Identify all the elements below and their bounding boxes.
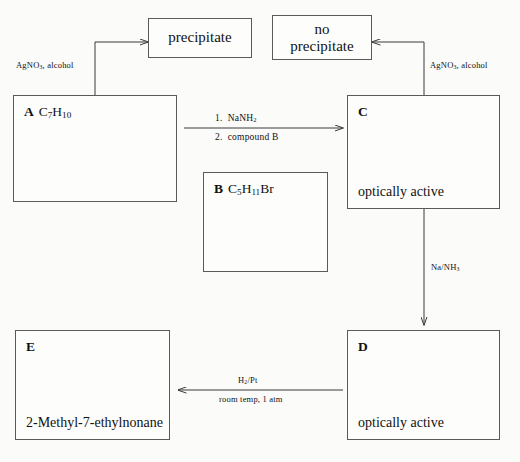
condition-a-to-c-step1: 1. NaNH2 xyxy=(215,113,257,123)
box-precipitate: precipitate xyxy=(148,18,252,58)
box-d: D optically active xyxy=(347,330,500,440)
box-c: C optically active xyxy=(347,95,500,209)
condition-a-to-c-step2: 2. compound B xyxy=(215,132,279,142)
box-a-tag: A xyxy=(24,104,34,119)
arrow-a-to-precipitate xyxy=(95,42,148,95)
no-precipitate-line1: no xyxy=(273,21,371,39)
box-a: AC7H10 xyxy=(13,95,177,202)
arrow-c-to-no-precipitate xyxy=(372,42,424,95)
box-c-tag: C xyxy=(358,104,368,119)
condition-agno3-right: AgNO3, alcohol xyxy=(430,60,488,70)
box-e-tag: E xyxy=(26,339,35,354)
precipitate-text: precipitate xyxy=(149,29,251,47)
box-c-note: optically active xyxy=(358,184,444,200)
box-c-label: C xyxy=(358,104,373,120)
box-e-label: E xyxy=(26,339,40,355)
box-e: E 2-Methyl-7-ethylnonane xyxy=(15,330,170,440)
box-d-note: optically active xyxy=(358,415,444,431)
box-b-label: BC5H11Br xyxy=(214,181,274,197)
box-b-tag: B xyxy=(214,181,223,196)
condition-d-to-e-top: H2/Pt xyxy=(238,375,258,385)
box-e-compound-name: 2-Methyl-7-ethylnonane xyxy=(26,415,163,431)
box-b: BC5H11Br xyxy=(203,172,328,272)
box-a-formula: C7H10 xyxy=(39,104,72,119)
box-no-precipitate: no precipitate xyxy=(272,15,372,60)
box-a-label: AC7H10 xyxy=(24,104,71,120)
condition-agno3-left: AgNO3, alcohol xyxy=(16,60,74,70)
condition-d-to-e-bottom: room temp, 1 atm xyxy=(219,394,283,404)
box-b-formula: C5H11Br xyxy=(228,181,274,196)
box-d-tag: D xyxy=(358,339,368,354)
condition-c-to-d: Na/NH3 xyxy=(431,262,460,272)
reaction-scheme-diagram: precipitate no precipitate AC7H10 BC5H11… xyxy=(0,0,520,462)
box-d-label: D xyxy=(358,339,373,355)
no-precipitate-line2: precipitate xyxy=(273,38,371,56)
